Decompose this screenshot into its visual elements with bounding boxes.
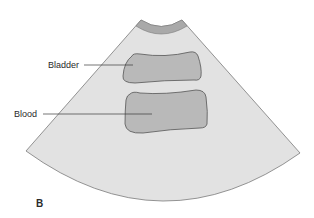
blood-label: Blood [14, 109, 37, 119]
panel-letter: B [36, 198, 43, 209]
bladder-label: Bladder [48, 60, 79, 70]
bladder-region [123, 52, 201, 83]
blood-region [125, 90, 207, 133]
ultrasound-diagram: Bladder Blood B [0, 0, 314, 218]
